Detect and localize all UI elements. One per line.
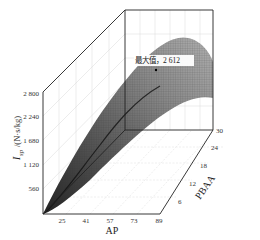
svg-text:18: 18 bbox=[200, 162, 208, 170]
x-axis-ticks: 25 41 57 73 89 bbox=[59, 217, 164, 225]
svg-text:12: 12 bbox=[189, 180, 197, 188]
surface-chart: 最大值，2 612 560 1 120 1 680 2 240 2 800 I … bbox=[0, 0, 260, 240]
svg-text:最大值，2 612: 最大值，2 612 bbox=[135, 55, 180, 65]
svg-text:41: 41 bbox=[83, 217, 91, 225]
y-axis-label: PBAA bbox=[193, 172, 218, 201]
svg-text:57: 57 bbox=[107, 217, 115, 225]
svg-text:2 800: 2 800 bbox=[23, 90, 39, 98]
svg-text:30: 30 bbox=[216, 127, 224, 135]
svg-text:2 240: 2 240 bbox=[23, 113, 39, 121]
svg-text:/(N·s/kg): /(N·s/kg) bbox=[12, 116, 22, 147]
svg-text:sp: sp bbox=[17, 149, 25, 156]
z-axis-ticks: 560 1 120 1 680 2 240 2 800 bbox=[23, 90, 39, 193]
svg-text:6: 6 bbox=[178, 198, 182, 206]
svg-text:24: 24 bbox=[211, 144, 219, 152]
svg-text:73: 73 bbox=[131, 217, 139, 225]
svg-text:25: 25 bbox=[59, 217, 67, 225]
svg-text:1 680: 1 680 bbox=[23, 137, 39, 145]
x-axis-label: AP bbox=[106, 225, 119, 236]
svg-text:560: 560 bbox=[29, 185, 40, 193]
svg-text:1 120: 1 120 bbox=[23, 161, 39, 169]
svg-text:89: 89 bbox=[156, 217, 164, 225]
